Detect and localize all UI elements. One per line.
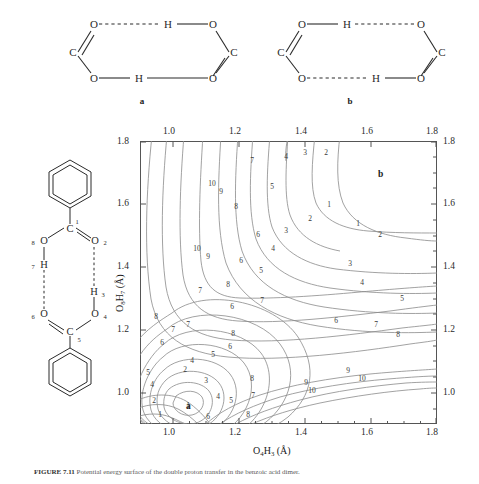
svg-text:10: 10	[208, 179, 216, 188]
contour-plot: 1 1 2 2 3 4 4 4 5 5 5 6 6 7 7 7 8 8 8 9 …	[140, 141, 437, 424]
svg-text:7: 7	[251, 391, 255, 400]
ytick-label-1.6: 1.6	[117, 198, 129, 208]
svg-text:1: 1	[356, 219, 360, 228]
svg-text:3: 3	[284, 226, 288, 235]
svg-text:8: 8	[234, 202, 238, 211]
xtick-label-1.2: 1.2	[229, 427, 241, 437]
xtick-label-top-1.4: 1.4	[295, 126, 307, 136]
svg-text:2: 2	[183, 365, 187, 374]
scheme-a-atom-h-top: H	[164, 18, 172, 30]
svg-text:6: 6	[230, 302, 234, 311]
svg-text:6: 6	[239, 256, 243, 265]
svg-text:8: 8	[396, 330, 400, 339]
molecule-atom-c1: C	[66, 223, 73, 234]
svg-text:8: 8	[154, 312, 158, 321]
ytick-label-right-1.6: 1.6	[443, 198, 455, 208]
ytick-label-right-1.4: 1.4	[443, 261, 455, 271]
figure-caption: FIGURE 7.11 Potential energy surface of …	[34, 468, 454, 477]
svg-text:5: 5	[400, 294, 404, 303]
x-axis-title: O4H3 (Å)	[253, 445, 291, 457]
ytick-label-right-1.0: 1.0	[443, 387, 455, 397]
scheme-b-atom-h-bottom: H	[372, 72, 380, 84]
molecule-atom-o2: O	[91, 235, 99, 246]
molecule-atom-o4: O	[91, 308, 99, 319]
svg-text:8: 8	[231, 329, 235, 338]
scheme-a-atom-o-topleft: O	[90, 18, 98, 30]
basin-label-b: b	[378, 169, 383, 179]
svg-text:2: 2	[324, 148, 328, 157]
scheme-b-atom-o-bottomleft: O	[298, 72, 306, 84]
molecule-index-3: 3	[101, 291, 104, 298]
svg-text:7: 7	[186, 320, 190, 329]
scheme-b-atom-c-right: C	[438, 46, 445, 58]
svg-text:5: 5	[259, 266, 263, 275]
svg-text:10: 10	[193, 244, 201, 253]
xtick-label-1.0: 1.0	[163, 427, 175, 437]
benzoic-acid-dimer-structure: C O H O C O H O 1 2 3 4 5 6 7 8	[22, 152, 118, 400]
svg-text:7: 7	[260, 296, 264, 305]
svg-text:6: 6	[206, 412, 210, 421]
svg-text:7: 7	[198, 286, 202, 295]
molecule-index-7: 7	[31, 263, 35, 270]
svg-text:6: 6	[256, 230, 260, 239]
svg-text:10: 10	[308, 386, 316, 395]
basin-label-a: a	[186, 401, 191, 411]
svg-text:9: 9	[346, 366, 350, 375]
svg-text:3: 3	[348, 259, 352, 268]
scheme-a-drawing: O H O C C O H O	[42, 8, 242, 104]
molecule-index-4: 4	[103, 313, 107, 320]
molecule-index-6: 6	[31, 313, 35, 320]
ytick-label-1.4: 1.4	[117, 261, 129, 271]
molecule-index-1: 1	[75, 218, 78, 225]
svg-text:6: 6	[228, 342, 232, 351]
svg-text:8: 8	[250, 374, 254, 383]
xtick-label-top-1.2: 1.2	[229, 126, 241, 136]
molecule-index-2: 2	[103, 239, 106, 246]
svg-text:10: 10	[358, 374, 366, 383]
scheme-a-atom-o-topright: O	[209, 18, 217, 30]
scheme-a-atom-c-right: C	[230, 46, 237, 58]
xtick-label-top-1.6: 1.6	[361, 126, 373, 136]
figure-caption-text: Potential energy surface of the double p…	[77, 468, 300, 476]
scheme-b-drawing: O H O C C O H O	[250, 8, 450, 104]
molecule-atom-h3: H	[90, 286, 98, 297]
molecule-atom-o8: O	[40, 235, 48, 246]
svg-text:4: 4	[216, 392, 220, 401]
xtick-label-top-1.0: 1.0	[163, 126, 175, 136]
molecule-index-5: 5	[77, 336, 80, 343]
svg-text:5: 5	[229, 396, 233, 405]
scheme-b-atom-h-top: H	[343, 18, 351, 30]
svg-text:9: 9	[206, 252, 210, 261]
svg-text:4: 4	[284, 152, 288, 161]
svg-text:2: 2	[152, 396, 156, 405]
svg-text:4: 4	[190, 356, 194, 365]
svg-text:7: 7	[374, 320, 378, 329]
molecule-drawing: C O H O C O H O 1 2 3 4 5 6 7 8	[22, 152, 118, 400]
svg-text:5: 5	[211, 350, 215, 359]
svg-text:8: 8	[246, 410, 250, 419]
svg-text:7: 7	[171, 325, 175, 334]
molecule-atom-c5: C	[66, 326, 73, 337]
phenyl-ring-bottom	[49, 348, 91, 396]
y-axis-title: O8H7 (Å)	[114, 274, 126, 312]
svg-text:3: 3	[204, 376, 208, 385]
xtick-label-top-1.8: 1.8	[426, 126, 438, 136]
svg-text:4: 4	[150, 380, 154, 389]
scheme-a-atom-o-bottomleft: O	[90, 72, 98, 84]
xtick-label-1.6: 1.6	[361, 427, 373, 437]
scheme-b: O H O C C O H O b	[250, 8, 450, 108]
figure-number: FIGURE 7.11	[34, 468, 75, 476]
ytick-label-1.8: 1.8	[117, 136, 129, 146]
scheme-a-atom-o-bottomright: O	[209, 72, 217, 84]
scheme-a: O H O C C O H O a	[42, 8, 242, 108]
svg-text:6: 6	[334, 316, 338, 325]
svg-text:3: 3	[303, 148, 307, 157]
svg-text:6: 6	[160, 338, 164, 347]
svg-text:5: 5	[146, 368, 150, 377]
ytick-label-right-1.8: 1.8	[443, 136, 455, 146]
svg-text:8: 8	[226, 280, 230, 289]
svg-text:4: 4	[360, 278, 364, 287]
svg-text:2: 2	[308, 214, 312, 223]
svg-text:2: 2	[378, 230, 382, 239]
xtick-label-1.8: 1.8	[426, 427, 438, 437]
